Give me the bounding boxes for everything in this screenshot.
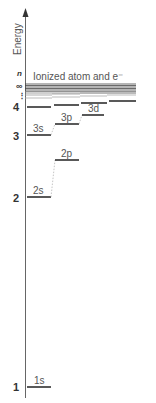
n-label: n [17, 69, 22, 78]
label-2p: 2p [61, 148, 73, 159]
axis-arrow-icon [23, 8, 29, 17]
label-3p: 3p [61, 112, 73, 123]
continuum-lines [25, 84, 136, 98]
infinity-label: ∞ [16, 81, 23, 91]
tick-n4: 4 [13, 101, 20, 113]
label-3s: 3s [33, 123, 44, 134]
tick-n3: 3 [13, 130, 19, 142]
label-3d: 3d [88, 103, 99, 114]
level-n4 [27, 101, 136, 107]
dots-label: ⋮ [18, 91, 26, 100]
axis-label: Energy [12, 23, 23, 55]
ionized-label: Ionized atom and e⁻ [33, 71, 123, 82]
label-2s: 2s [33, 185, 44, 196]
label-1s: 1s [34, 375, 45, 386]
energy-level-diagram: Energy n ∞ ⋮ Ionized atom and e⁻ 4 3 3s … [0, 0, 156, 403]
tick-n1: 1 [13, 381, 19, 393]
tick-n2: 2 [13, 192, 19, 204]
